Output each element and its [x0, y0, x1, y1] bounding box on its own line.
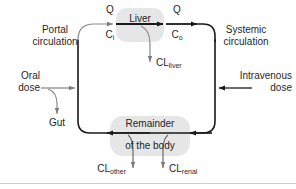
remainder-label-line2: of the body [110, 140, 190, 152]
liver-label: Liver [118, 13, 162, 25]
cl-liver-label: CLliver [156, 57, 182, 70]
concentration-in-label: Ci [99, 29, 121, 42]
cl-liver-symbol: CL [156, 57, 169, 68]
cl-other-subscript: other [110, 168, 126, 175]
cl-liver-subscript: liver [169, 62, 182, 69]
systemic-circulation-label: Systemic circulation [212, 24, 280, 47]
concentration-in-symbol: C [106, 29, 113, 40]
concentration-out-label: Co [166, 29, 188, 42]
gut-label: Gut [40, 117, 74, 129]
cl-other-label: CLother [74, 163, 126, 176]
cl-other-symbol: CL [97, 163, 110, 174]
intravenous-dose-label: Intravenous dose [212, 70, 292, 93]
concentration-out-subscript: o [179, 34, 183, 41]
q-outflow-label: Q [168, 4, 186, 16]
cl-renal-subscript: renal [182, 168, 198, 175]
q-inflow-label: Q [101, 4, 119, 16]
portal-circulation-label: Portal circulation [28, 24, 82, 47]
cl-renal-label: CLrenal [169, 163, 197, 176]
oral-dose-label: Oral dose [2, 70, 40, 93]
diagram-canvas: Q Q Ci Co Liver CLliver Portal circulati… [0, 0, 296, 189]
concentration-out-symbol: C [171, 29, 178, 40]
cl-renal-symbol: CL [169, 163, 182, 174]
gut-branch-arrow [48, 89, 57, 114]
concentration-in-subscript: i [113, 34, 115, 41]
remainder-label-line1: Remainder [110, 118, 190, 130]
footer-divider [0, 183, 296, 184]
